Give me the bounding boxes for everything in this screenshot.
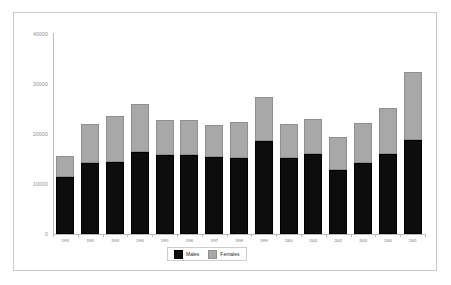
x-axis-tick-label: 2005 [400, 239, 425, 243]
bar-segment-females[interactable] [81, 124, 99, 163]
bar-segment-females[interactable] [280, 124, 298, 158]
x-axis-tick [351, 234, 352, 237]
bar-segment-males[interactable] [230, 158, 248, 234]
bar-stack[interactable] [56, 156, 74, 234]
bar-segment-males[interactable] [404, 140, 422, 234]
x-axis-tick-label: 1992 [78, 239, 103, 243]
bar-segment-males[interactable] [255, 141, 273, 234]
bar-segment-females[interactable] [230, 122, 248, 158]
bar-stack[interactable] [205, 125, 223, 235]
legend-item[interactable]: Females [208, 250, 239, 259]
bar-segment-males[interactable] [354, 163, 372, 235]
legend-swatch-icon [174, 250, 183, 259]
bar-stack[interactable] [81, 124, 99, 234]
bar-segment-females[interactable] [304, 119, 322, 154]
chart-frame: 010000200003000040000 199119921993199419… [13, 12, 437, 271]
bar-segment-females[interactable] [156, 120, 174, 156]
x-axis-tick [251, 234, 252, 237]
x-axis-tick-label: 1998 [227, 239, 252, 243]
bar-segment-females[interactable] [106, 116, 124, 162]
bar-stack[interactable] [354, 123, 372, 234]
x-axis-line [53, 234, 425, 235]
bar-segment-males[interactable] [156, 155, 174, 234]
bar-segment-females[interactable] [404, 72, 422, 140]
bar-stack[interactable] [304, 119, 322, 234]
x-axis-tick-label: 2002 [326, 239, 351, 243]
bar-stack[interactable] [230, 122, 248, 234]
bar-stack[interactable] [255, 97, 273, 234]
bar-segment-females[interactable] [354, 123, 372, 163]
bar-segment-males[interactable] [205, 157, 223, 235]
x-axis-tick-label: 2004 [375, 239, 400, 243]
x-axis-tick [202, 234, 203, 237]
bar-segment-females[interactable] [379, 108, 397, 155]
x-axis-tick [326, 234, 327, 237]
bar-stack[interactable] [280, 124, 298, 234]
chart-legend: MalesFemales [167, 247, 247, 261]
x-axis-tick-label: 1997 [202, 239, 227, 243]
x-axis-tick [301, 234, 302, 237]
y-axis-tick-label: 40000 [20, 31, 48, 37]
y-axis-tick-label: 0 [20, 231, 48, 237]
bar-segment-females[interactable] [180, 120, 198, 155]
x-axis-tick [127, 234, 128, 237]
bar-segment-females[interactable] [56, 156, 74, 177]
bar-segment-males[interactable] [131, 152, 149, 234]
x-axis-tick [400, 234, 401, 237]
bar-stack[interactable] [156, 120, 174, 235]
bar-segment-males[interactable] [379, 154, 397, 234]
x-axis-tick-label: 1994 [127, 239, 152, 243]
x-axis-tick-label: 1996 [177, 239, 202, 243]
y-axis-line [53, 33, 54, 234]
bar-segment-males[interactable] [56, 177, 74, 234]
legend-item[interactable]: Males [174, 250, 199, 259]
x-axis-tick-label: 1995 [152, 239, 177, 243]
x-axis-tick [276, 234, 277, 237]
x-axis-tick [152, 234, 153, 237]
x-axis-tick [425, 234, 426, 237]
x-axis-tick-label: 1999 [251, 239, 276, 243]
bar-segment-males[interactable] [280, 158, 298, 234]
bar-segment-males[interactable] [304, 154, 322, 234]
x-axis-tick [375, 234, 376, 237]
bar-stack[interactable] [180, 120, 198, 234]
y-axis-tick-label: 20000 [20, 131, 48, 137]
x-axis-tick [53, 234, 54, 237]
bar-segment-females[interactable] [131, 104, 149, 153]
bar-stack[interactable] [329, 137, 347, 234]
bar-stack[interactable] [131, 104, 149, 235]
bar-segment-males[interactable] [81, 163, 99, 234]
x-axis-tick [78, 234, 79, 237]
x-axis-tick [227, 234, 228, 237]
legend-swatch-icon [208, 250, 217, 259]
x-axis-tick [103, 234, 104, 237]
y-axis-tick-label: 30000 [20, 81, 48, 87]
x-axis-tick-label: 2001 [301, 239, 326, 243]
legend-label: Males [186, 251, 199, 257]
x-axis-tick-label: 1991 [53, 239, 78, 243]
bar-segment-males[interactable] [329, 170, 347, 234]
bar-segment-males[interactable] [106, 162, 124, 235]
bar-segment-females[interactable] [329, 137, 347, 170]
bar-segment-females[interactable] [205, 125, 223, 157]
bar-stack[interactable] [379, 108, 397, 235]
plot-area: 010000200003000040000 199119921993199419… [14, 13, 438, 272]
bar-stack[interactable] [404, 72, 422, 234]
bar-segment-males[interactable] [180, 155, 198, 235]
x-axis-tick [177, 234, 178, 237]
x-axis-tick-label: 1993 [103, 239, 128, 243]
bar-segment-females[interactable] [255, 97, 273, 141]
bar-stack[interactable] [106, 116, 124, 234]
x-axis-tick-label: 2003 [351, 239, 376, 243]
legend-label: Females [220, 251, 239, 257]
x-axis-tick-label: 2000 [276, 239, 301, 243]
y-axis-tick-label: 10000 [20, 181, 48, 187]
